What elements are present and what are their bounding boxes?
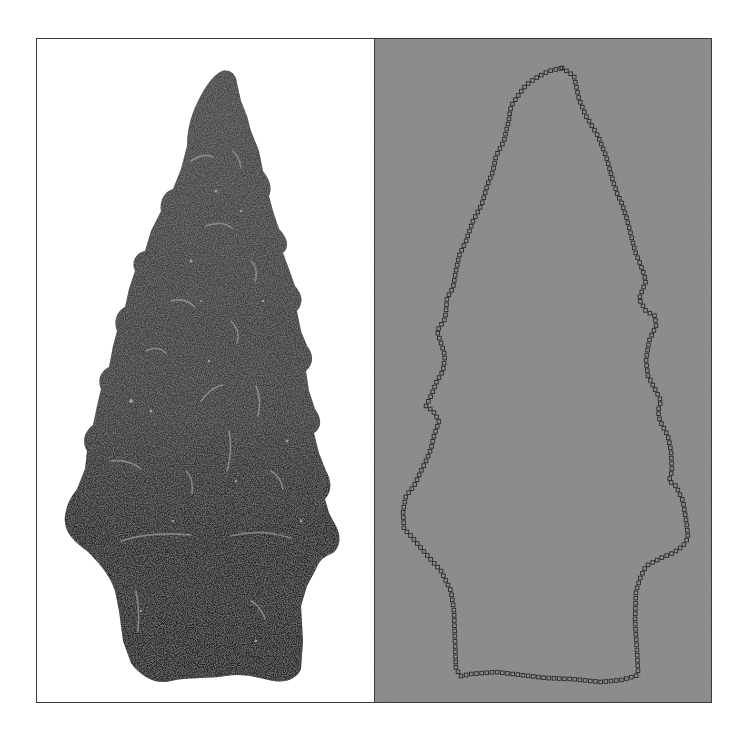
outline-panel: Digitized outline landmarks of projectil… (375, 39, 711, 702)
photo-panel: Photograph of serrated stone projectile … (37, 39, 375, 702)
background-grain (375, 39, 711, 702)
digitized-outline (375, 39, 711, 702)
arrowhead-silhouette (65, 71, 340, 683)
figure-frame: Photograph of serrated stone projectile … (36, 38, 712, 703)
arrowhead-photo (37, 39, 375, 702)
